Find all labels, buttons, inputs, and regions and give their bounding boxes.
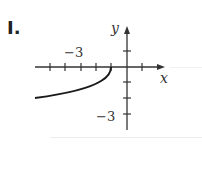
- y-axis-label: y: [110, 20, 120, 36]
- x-tick-label-neg3: −3: [64, 45, 83, 60]
- divider-line-right: [170, 67, 202, 68]
- graph: y x −3 −3: [0, 0, 202, 181]
- divider-line: [50, 137, 202, 138]
- function-curve: [35, 67, 111, 98]
- x-axis-label: x: [160, 70, 168, 86]
- y-tick-label-neg3: −3: [96, 109, 115, 124]
- y-axis-arrow-icon: [124, 26, 130, 34]
